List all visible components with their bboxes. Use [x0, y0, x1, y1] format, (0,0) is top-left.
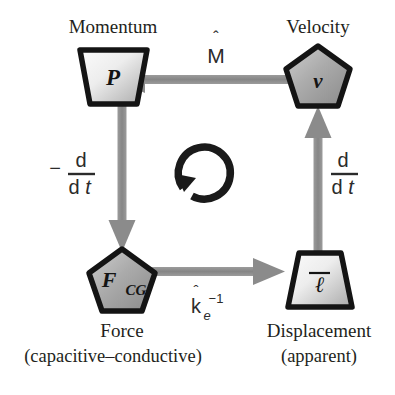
cycle-arrow-icon — [176, 147, 230, 199]
node-velocity[interactable]: v — [286, 46, 350, 106]
edge-label-k-hat-inverse: ˆ k e −1 — [191, 282, 223, 323]
arrowhead-right — [253, 258, 285, 285]
node-force-symbol: F — [101, 267, 117, 292]
edge-label-neg-sign: − — [49, 157, 61, 179]
bond-graph-diagram: P Momentum v Velocity F CG Force (capaci… — [0, 0, 395, 395]
edge-label-denominator-t: t — [348, 176, 355, 198]
node-momentum-caption: Momentum — [69, 16, 158, 37]
edge-label-neg-d-dt: − d d t — [49, 149, 95, 198]
node-force[interactable]: F CG — [89, 249, 155, 311]
node-velocity-caption: Velocity — [286, 16, 350, 37]
edge-label-k-superscript: −1 — [209, 291, 224, 306]
edge-shaft-bottom — [150, 267, 260, 276]
edge-shaft-right — [314, 130, 323, 255]
node-momentum[interactable]: P — [80, 50, 147, 104]
node-displacement[interactable]: ℓ — [288, 253, 352, 307]
edge-label-k-base: k — [191, 295, 202, 317]
node-momentum-symbol: P — [105, 65, 121, 90]
edge-displacement-to-velocity — [305, 106, 332, 255]
edge-momentum-to-force — [109, 103, 136, 252]
node-displacement-caption: Displacement — [267, 320, 372, 341]
edge-force-to-displacement — [150, 258, 285, 285]
node-force-symbol-subscript: CG — [126, 282, 147, 298]
arrowhead-up — [305, 106, 332, 138]
diagram-canvas: P Momentum v Velocity F CG Force (capaci… — [0, 0, 395, 395]
node-displacement-caption-sub: (apparent) — [281, 346, 357, 367]
edge-label-m-hat-base: M — [207, 44, 225, 67]
cycle-arc — [178, 147, 230, 199]
edge-label-neg-numerator: d — [75, 149, 86, 171]
node-force-caption-sub: (capacitive–conductive) — [24, 346, 202, 367]
edge-label-neg-denominator-d: d — [68, 176, 79, 198]
edge-shaft-left — [118, 103, 127, 228]
node-displacement-symbol: ℓ — [315, 272, 324, 297]
edge-label-numerator: d — [337, 149, 348, 171]
edge-label-d-dt: d d t — [331, 149, 358, 198]
node-velocity-symbol: v — [313, 69, 323, 93]
edge-shaft-top — [140, 75, 288, 84]
edge-label-k-subscript: e — [203, 308, 210, 323]
node-force-caption: Force — [100, 320, 143, 341]
edge-label-neg-denominator-t: t — [85, 176, 92, 198]
edge-label-m-hat: ˆ M — [207, 29, 225, 67]
edge-label-denominator-d: d — [331, 176, 342, 198]
node-force-shape[interactable] — [89, 249, 155, 311]
